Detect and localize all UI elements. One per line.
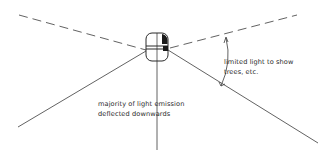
left-upper-dashed-line bbox=[19, 15, 146, 50]
right-upper-dashed-line bbox=[170, 15, 297, 48]
annotation-line: majority of light emission bbox=[98, 100, 184, 110]
limited-light-annotation: limited light to show trees, etc. bbox=[224, 58, 293, 77]
annotation-line: trees, etc. bbox=[224, 68, 293, 78]
lamp-icon bbox=[146, 33, 168, 61]
annotation-line: deflected downwards bbox=[98, 110, 184, 120]
annotation-line: limited light to show bbox=[224, 58, 293, 68]
majority-emission-annotation: majority of light emission deflected dow… bbox=[98, 100, 184, 119]
diagram-canvas bbox=[0, 0, 332, 163]
